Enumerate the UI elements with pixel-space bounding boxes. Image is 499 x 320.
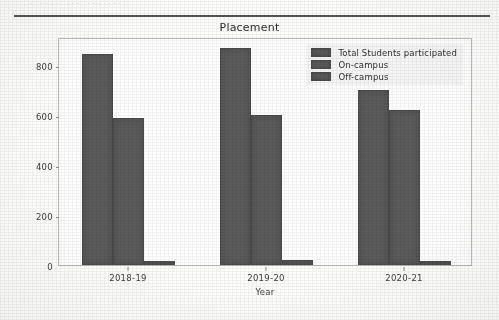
bar-2018-19-total-students-participated xyxy=(82,54,113,265)
legend-label: Total Students participated xyxy=(338,48,457,58)
y-axis-tick-label: 0 xyxy=(29,262,53,272)
bar-2020-21-total-students-participated xyxy=(358,90,389,265)
legend-swatch-icon xyxy=(311,48,331,57)
bar-2019-20-on-campus xyxy=(251,115,282,265)
x-axis-tick-label: 2019-20 xyxy=(247,273,285,283)
y-axis-tick-mark xyxy=(56,217,59,218)
chart-title: Placement xyxy=(0,21,499,34)
x-axis-tick-mark xyxy=(404,267,405,271)
chart-figure: Placement 02004006008002018-192019-20202… xyxy=(0,15,499,315)
x-axis-tick-mark xyxy=(128,267,129,271)
y-axis-tick-mark xyxy=(56,117,59,118)
bar-2019-20-total-students-participated xyxy=(220,48,251,266)
x-axis-label: Year xyxy=(58,287,472,297)
plot-frame: 02004006008002018-192019-202020-21 Total… xyxy=(58,38,472,266)
bar-2020-21-off-campus xyxy=(420,261,451,266)
legend-item: On-campus xyxy=(311,60,457,69)
legend-swatch-icon xyxy=(311,60,331,69)
cropped-header-text: · ···· ··· ··· ··· xyxy=(30,0,170,9)
x-axis-tick-label: 2020-21 xyxy=(385,273,423,283)
bar-2018-19-off-campus xyxy=(144,261,175,266)
legend-label: Off-campus xyxy=(338,72,388,82)
y-axis-tick-mark xyxy=(56,167,59,168)
y-axis-tick-mark xyxy=(56,67,59,68)
x-axis-tick-mark xyxy=(266,267,267,271)
bar-2020-21-on-campus xyxy=(389,110,420,265)
legend-swatch-icon xyxy=(311,72,331,81)
bar-2018-19-on-campus xyxy=(113,118,144,266)
legend-item: Off-campus xyxy=(311,72,457,81)
legend-label: On-campus xyxy=(338,60,388,70)
x-axis-tick-label: 2018-19 xyxy=(109,273,147,283)
chart-legend: Total Students participatedOn-campusOff-… xyxy=(306,44,463,85)
y-axis-tick-label: 400 xyxy=(29,162,53,172)
legend-item: Total Students participated xyxy=(311,48,457,57)
y-axis-tick-label: 200 xyxy=(29,212,53,222)
y-axis-tick-label: 600 xyxy=(29,112,53,122)
bar-2019-20-off-campus xyxy=(282,260,313,266)
y-axis-tick-label: 800 xyxy=(29,62,53,72)
